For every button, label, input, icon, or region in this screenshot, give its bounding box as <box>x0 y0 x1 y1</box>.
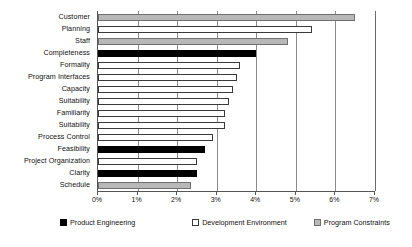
bar-row <box>98 71 375 83</box>
axis-tick <box>137 192 138 195</box>
bar-chart: CustomerPlanningStaffCompletenessFormali… <box>0 0 412 247</box>
value-axis: 0%1%2%3%4%5%6%7% <box>97 192 374 206</box>
axis-tick-label: 4% <box>250 196 260 203</box>
bar-product-engineering <box>98 170 197 177</box>
category-label: Capacity <box>0 83 94 95</box>
bar-row <box>98 131 375 143</box>
category-label: Customer <box>0 11 94 23</box>
axis-tick-label: 1% <box>132 196 142 203</box>
bar-row <box>98 35 375 47</box>
legend-swatch-development-environment <box>192 219 199 226</box>
category-label: Clarity <box>0 167 94 179</box>
bar-row <box>98 23 375 35</box>
legend-label: Product Engineering <box>70 219 135 226</box>
axis-tick <box>97 192 98 195</box>
bar-row <box>98 167 375 179</box>
bar-row <box>98 95 375 107</box>
bar-development-environment <box>98 86 233 93</box>
bar-development-environment <box>98 98 229 105</box>
bar-row <box>98 83 375 95</box>
bar-development-environment <box>98 26 312 33</box>
bar-development-environment <box>98 122 225 129</box>
legend-swatch-program-constraints <box>314 219 321 226</box>
axis-tick <box>334 192 335 195</box>
axis-tick-label: 7% <box>369 196 379 203</box>
axis-tick <box>255 192 256 195</box>
chart-legend: Product EngineeringDevelopment Environme… <box>60 216 390 230</box>
bar-development-environment <box>98 74 237 81</box>
category-label: Suitability <box>0 95 94 107</box>
category-axis: CustomerPlanningStaffCompletenessFormali… <box>0 11 94 191</box>
bar-row <box>98 119 375 131</box>
category-label: Completeness <box>0 47 94 59</box>
legend-label: Development Environment <box>202 219 287 226</box>
axis-tick <box>374 192 375 195</box>
axis-tick-label: 3% <box>211 196 221 203</box>
bar-development-environment <box>98 158 197 165</box>
category-label: Schedule <box>0 179 94 191</box>
bar-row <box>98 179 375 191</box>
bar-development-environment <box>98 62 240 69</box>
axis-tick-label: 5% <box>290 196 300 203</box>
bar-program-constraints <box>98 14 355 21</box>
axis-tick-label: 0% <box>92 196 102 203</box>
category-label: Suitability <box>0 119 94 131</box>
category-label: Staff <box>0 35 94 47</box>
axis-tick <box>216 192 217 195</box>
plot-area <box>97 11 375 192</box>
axis-tick <box>295 192 296 195</box>
axis-tick <box>176 192 177 195</box>
legend-entry: Product Engineering <box>60 219 135 226</box>
category-label: Program Interfaces <box>0 71 94 83</box>
bar-row <box>98 107 375 119</box>
category-label: Process Control <box>0 131 94 143</box>
bar-product-engineering <box>98 146 205 153</box>
bar-program-constraints <box>98 182 191 189</box>
bar-row <box>98 143 375 155</box>
bar-row <box>98 11 375 23</box>
category-label: Formality <box>0 59 94 71</box>
bar-program-constraints <box>98 38 288 45</box>
legend-label: Program Constraints <box>324 219 390 226</box>
bar-development-environment <box>98 110 225 117</box>
bar-product-engineering <box>98 50 256 57</box>
axis-tick-label: 6% <box>329 196 339 203</box>
bar-development-environment <box>98 134 213 141</box>
category-label: Feasibility <box>0 143 94 155</box>
bar-row <box>98 155 375 167</box>
gridline <box>375 11 376 191</box>
bar-row <box>98 59 375 71</box>
category-label: Project Organization <box>0 155 94 167</box>
legend-entry: Program Constraints <box>314 219 390 226</box>
bar-row <box>98 47 375 59</box>
legend-entry: Development Environment <box>192 219 287 226</box>
axis-tick-label: 2% <box>171 196 181 203</box>
legend-swatch-product-engineering <box>60 219 67 226</box>
category-label: Familiarity <box>0 107 94 119</box>
bars-layer <box>98 11 375 191</box>
category-label: Planning <box>0 23 94 35</box>
